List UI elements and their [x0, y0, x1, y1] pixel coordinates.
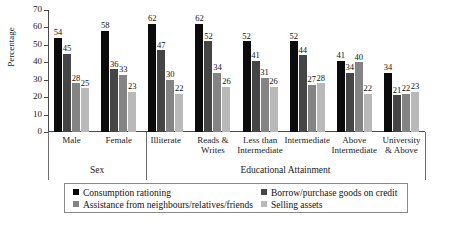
bar	[270, 87, 278, 132]
bar-value-label: 30	[162, 70, 178, 79]
y-tick-label: 40	[33, 57, 42, 66]
bar-value-label: 41	[333, 51, 349, 60]
bar-chart-figure: Percentage 706050403020100 5445282558363…	[0, 0, 451, 227]
bar-value-label: 28	[313, 74, 329, 83]
y-tick-label: 10	[33, 110, 42, 119]
bar	[355, 62, 363, 132]
bar-value-label: 33	[115, 65, 131, 74]
bar-value-label: 52	[200, 32, 216, 41]
bar	[261, 78, 269, 132]
supergroup-label-education: Educational Attainment	[146, 165, 425, 175]
bar-value-label: 22	[360, 84, 376, 93]
bar-value-label: 26	[266, 77, 282, 86]
legend-swatch-icon	[73, 189, 79, 195]
legend-item-selling-assets: Selling assets	[261, 200, 322, 211]
y-tick-label-wrap: 70	[0, 5, 42, 15]
bar-value-label: 22	[171, 84, 187, 93]
category-label: University & Above	[372, 135, 431, 155]
y-tick-label-wrap: 60	[0, 22, 42, 32]
bar	[384, 73, 392, 132]
bar-value-label: 52	[239, 32, 255, 41]
bar-value-label: 62	[191, 14, 207, 23]
bar	[63, 54, 71, 132]
legend-label: Assistance from neighbours/relatives/fri…	[83, 200, 253, 210]
bar-value-label: 26	[218, 77, 234, 86]
bar-value-label: 41	[248, 51, 264, 60]
legend-label: Borrow/purchase goods on credit	[271, 188, 397, 198]
bar-value-label: 47	[153, 41, 169, 50]
supergroup-label-sex: Sex	[48, 165, 146, 175]
bar	[101, 31, 109, 132]
bar-value-label: 23	[124, 82, 140, 91]
bar	[110, 69, 118, 132]
legend-swatch-icon	[261, 201, 267, 207]
bar	[72, 83, 80, 132]
bar-value-label: 62	[144, 14, 160, 23]
bar-value-label: 40	[351, 53, 367, 62]
group-separator-right	[425, 132, 426, 180]
y-tick-label: 60	[33, 22, 42, 31]
legend-swatch-icon	[73, 201, 79, 207]
legend-label: Selling assets	[271, 200, 322, 210]
bar	[402, 94, 410, 132]
y-tick-label-wrap: 30	[0, 75, 42, 85]
bar	[290, 41, 298, 132]
legend-item-assistance: Assistance from neighbours/relatives/fri…	[73, 200, 253, 211]
y-tick-label-wrap: 0	[0, 127, 42, 137]
bar-value-label: 34	[209, 63, 225, 72]
bar	[204, 41, 212, 132]
bar	[128, 92, 136, 132]
bar-value-label: 25	[77, 79, 93, 88]
y-tick-label: 20	[33, 92, 42, 101]
bar	[346, 73, 354, 132]
y-tick-label-wrap: 10	[0, 110, 42, 120]
bar-value-label: 23	[407, 82, 423, 91]
plot-area: 5445282558363323624730226252342652413126…	[48, 10, 425, 132]
bar-value-label: 34	[380, 63, 396, 72]
legend-swatch-icon	[261, 189, 267, 195]
bar	[299, 55, 307, 132]
bar	[317, 83, 325, 132]
bar-value-label: 45	[59, 44, 75, 53]
bar	[411, 92, 419, 132]
legend-label: Consumption rationing	[83, 188, 171, 198]
bar	[308, 85, 316, 132]
legend-item-borrow-credit: Borrow/purchase goods on credit	[261, 188, 397, 199]
y-tick-label-wrap: 20	[0, 92, 42, 102]
chart-legend: Consumption rationing Assistance from ne…	[64, 183, 408, 213]
y-tick-label: 50	[33, 40, 42, 49]
bar	[222, 87, 230, 132]
y-tick-label-wrap: 50	[0, 40, 42, 50]
y-tick-label-wrap: 40	[0, 57, 42, 67]
bar	[393, 95, 401, 132]
bar-value-label: 44	[295, 46, 311, 55]
bar	[157, 50, 165, 132]
y-tick-label: 70	[33, 5, 42, 14]
bar-value-label: 58	[97, 21, 113, 30]
bar	[175, 94, 183, 132]
bar-value-label: 52	[286, 32, 302, 41]
bar	[81, 88, 89, 132]
bar-value-label: 54	[50, 28, 66, 37]
bar	[364, 94, 372, 132]
y-tick-label: 30	[33, 75, 42, 84]
legend-item-consumption-rationing: Consumption rationing	[73, 188, 171, 199]
